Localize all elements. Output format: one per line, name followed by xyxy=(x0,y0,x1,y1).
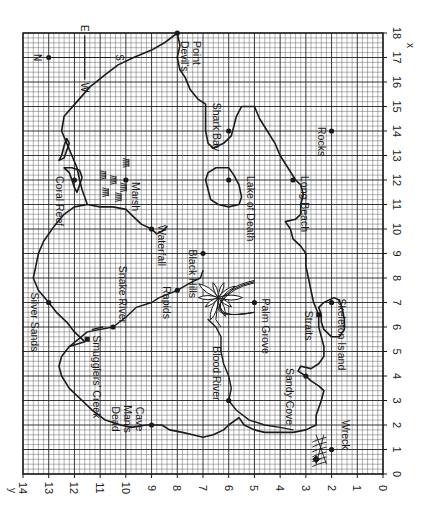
landmark-label: Rocks xyxy=(316,127,328,156)
landmark-marker xyxy=(226,177,231,182)
reed xyxy=(110,178,116,179)
y-tick-label: 5 xyxy=(248,485,260,491)
x-tick-label: 18 xyxy=(391,27,403,39)
reed xyxy=(100,173,106,174)
landmark-marker xyxy=(200,251,205,256)
landmark-marker xyxy=(149,226,154,231)
landmark-label: Blood River xyxy=(211,346,223,401)
x-tick-label: 0 xyxy=(391,471,403,477)
reed xyxy=(120,190,126,192)
landmark-label: Sandy Cove xyxy=(284,368,296,425)
landmark-sandy-cove[interactable]: Sandy Cove xyxy=(284,368,309,425)
landmark-marker xyxy=(226,128,231,133)
reed xyxy=(115,200,121,202)
x-axis-label: x xyxy=(405,43,416,48)
x-tick-label: 10 xyxy=(391,223,403,235)
y-tick-label: 1 xyxy=(351,485,363,491)
landmark-label: Straits xyxy=(303,311,315,341)
y-tick-label: 7 xyxy=(197,485,209,491)
compass-rose: N S E W xyxy=(32,25,125,93)
landmark-label: Wreck xyxy=(340,420,352,450)
reed xyxy=(120,183,126,185)
reed xyxy=(110,183,116,185)
landmark-marker xyxy=(329,447,334,452)
landmark-marker xyxy=(316,312,321,317)
landmark-dead-man-s-cave[interactable]: DeadMan'sCave xyxy=(110,405,155,433)
reed xyxy=(100,171,106,173)
y-tick-label: 0 xyxy=(377,485,389,491)
x-tick-label: 4 xyxy=(391,373,403,379)
y-tick-label: 6 xyxy=(223,485,235,491)
x-tick-label: 14 xyxy=(391,125,403,137)
x-tick-label: 13 xyxy=(391,149,403,161)
island-coastline xyxy=(33,33,344,437)
reed xyxy=(100,178,106,180)
reed xyxy=(115,199,121,200)
x-tick-label: 7 xyxy=(391,299,403,305)
landmark-label: Silver Sands xyxy=(29,293,41,352)
map-canvas: 0123456789101112131415161718 01234567891… xyxy=(0,0,423,531)
coastline-east xyxy=(62,33,178,234)
y-tick-label: 9 xyxy=(146,485,158,491)
compass-east-label: E xyxy=(79,25,90,32)
reed xyxy=(110,176,116,178)
landmark-label: Waterfall xyxy=(156,225,168,266)
landmarks: Devil'sPointShark BayRocksCoral ReefMars… xyxy=(29,30,352,452)
reed xyxy=(102,190,108,191)
y-axis-tick-labels: 01234567891011121314 xyxy=(17,474,389,494)
compass-west-label: W xyxy=(79,83,90,93)
landmark-marker xyxy=(149,422,154,427)
reed xyxy=(115,195,121,196)
reed xyxy=(120,185,126,186)
landmark-marker xyxy=(290,177,295,182)
landmark-lake-of-death[interactable]: Lake of Death xyxy=(226,176,257,242)
landmark-marker xyxy=(85,337,90,342)
landmark-palm-grove[interactable]: Palm Grove xyxy=(252,299,273,355)
landmark-label: Point xyxy=(191,41,203,65)
wreck-marker xyxy=(313,456,320,463)
landmark-label: Man's xyxy=(122,405,134,433)
compass-south-label: S xyxy=(114,54,125,61)
landmark-shark-bay[interactable]: Shark Bay xyxy=(211,103,232,152)
landmark-marker xyxy=(175,30,180,35)
x-tick-label: 1 xyxy=(391,446,403,452)
landmark-marker xyxy=(303,373,308,378)
landmark-label: Long Beach xyxy=(299,176,311,232)
palm-tree-icon xyxy=(198,280,254,327)
y-tick-label: 12 xyxy=(68,482,80,494)
landmark-label: Devil's xyxy=(179,41,191,72)
landmark-marker xyxy=(46,300,51,305)
y-tick-label: 3 xyxy=(300,485,312,491)
y-tick-label: 13 xyxy=(43,482,55,494)
x-tick-label: 3 xyxy=(391,397,403,403)
landmark-label: Skeleton Island xyxy=(336,299,348,371)
x-tick-label: 5 xyxy=(391,348,403,354)
landmark-label: Marsh xyxy=(130,182,142,211)
compass-north-label: N xyxy=(32,54,43,61)
y-tick-label: 8 xyxy=(171,485,183,491)
reed xyxy=(115,193,121,195)
landmark-label: Smugglers' Creek xyxy=(91,335,103,419)
landmark-label: Coral Reef xyxy=(54,176,66,226)
landmark-label: Dead xyxy=(110,406,122,431)
landmark-label: Snake River xyxy=(117,266,129,324)
x-tick-label: 15 xyxy=(391,100,403,112)
reed xyxy=(110,181,116,182)
treasure-map: 0123456789101112131415161718 01234567891… xyxy=(0,0,423,531)
landmark-marker xyxy=(110,324,115,329)
x-axis-tick-labels: 0123456789101112131415161718 xyxy=(383,27,403,477)
x-tick-label: 11 xyxy=(391,199,403,210)
y-tick-label: 4 xyxy=(274,485,286,491)
landmark-label: Lake of Death xyxy=(245,176,257,242)
landmark-label: Shark Bay xyxy=(211,103,223,152)
landmark-label: Black Hills xyxy=(187,250,199,298)
x-tick-label: 6 xyxy=(391,324,403,330)
landmark-marker xyxy=(329,128,334,133)
landmark-marker xyxy=(175,288,180,293)
x-tick-label: 16 xyxy=(391,76,403,88)
reed xyxy=(123,164,129,165)
x-tick-label: 12 xyxy=(391,174,403,186)
reed xyxy=(120,189,126,190)
reed xyxy=(100,177,106,178)
y-axis-label: y xyxy=(7,488,18,493)
